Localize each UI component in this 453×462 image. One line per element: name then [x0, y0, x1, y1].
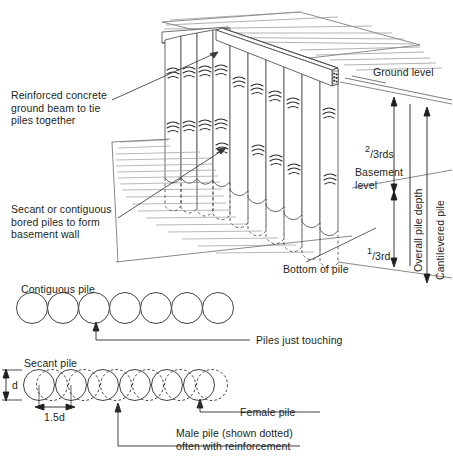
- dimension-arrow-one-third: [391, 191, 397, 267]
- basement-level-label: Basement level: [355, 166, 403, 191]
- one-third-numerator: 1: [367, 246, 372, 256]
- callout-bored-piles-label: Secant or contiguous bored piles to form…: [11, 203, 112, 241]
- contiguous-pile-circles: [17, 293, 234, 324]
- overall-pile-depth-label: Overall pile depth: [412, 188, 425, 272]
- two-thirds-numerator: 2: [365, 144, 370, 154]
- secant-pile-title: Secant pile: [24, 357, 77, 370]
- callout-ground-beam-label: Reinforced concrete ground beam to tie p…: [11, 89, 107, 127]
- ground-level-line: [345, 76, 452, 100]
- secant-diameter-label: d: [12, 379, 18, 392]
- figure-canvas: Reinforced concrete ground beam to tie p…: [0, 0, 453, 462]
- secant-female-pile-circles: [24, 370, 215, 401]
- female-pile-label: Female pile: [240, 406, 295, 419]
- bottom-of-pile-label: Bottom of pile: [283, 263, 349, 276]
- two-thirds-dimension-label: 2/3rds: [359, 131, 394, 161]
- contiguous-pile-leader: [93, 322, 250, 340]
- secant-male-pile-circles: [37, 370, 228, 401]
- ground-beam-reinforcement-bars-icon: [333, 71, 338, 84]
- contiguous-pile-title: Contiguous pile: [21, 283, 95, 296]
- dimension-arrow-cantilevered-pile: [424, 107, 430, 283]
- male-pile-label: Male pile (shown dotted) often with rein…: [176, 427, 293, 452]
- one-third-denominator: 3rd: [375, 249, 390, 261]
- piles-just-touching-label: Piles just touching: [256, 334, 343, 347]
- ground-level-label: Ground level: [373, 66, 434, 79]
- secant-spacing-label: 1.5d: [44, 411, 65, 424]
- one-third-dimension-label: 1/3rd: [361, 233, 391, 263]
- two-thirds-denominator: 3rds: [373, 147, 394, 159]
- cantilevered-pile-label: Cantilevered pile: [434, 200, 447, 280]
